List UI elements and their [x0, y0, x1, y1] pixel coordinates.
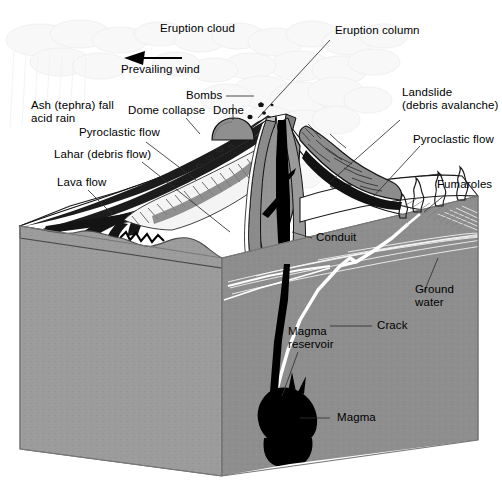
volcano-diagram: Eruption cloud Eruption column Prevailin… — [0, 0, 502, 486]
label-lava-flow: Lava flow — [57, 176, 106, 189]
label-landslide-line2: (debris avalanche) — [402, 99, 498, 112]
label-pyroclastic-flow-right: Pyroclastic flow — [413, 133, 494, 146]
label-ground-water-line1: Ground — [415, 283, 454, 296]
label-magma: Magma — [337, 411, 376, 424]
label-eruption-cloud: Eruption cloud — [160, 22, 235, 35]
label-magma-reservoir-line1: Magma — [288, 325, 327, 338]
label-crack: Crack — [377, 319, 408, 332]
label-ash-fall-line1: Ash (tephra) fall — [31, 99, 114, 112]
label-magma-reservoir-line2: reservoir — [288, 338, 334, 351]
volcano-illustration — [0, 0, 502, 486]
label-pyroclastic-flow-left: Pyroclastic flow — [79, 126, 160, 139]
label-dome: Dome — [213, 104, 244, 117]
label-bombs: Bombs — [186, 89, 222, 102]
label-prevailing-wind: Prevailing wind — [121, 63, 200, 76]
label-eruption-column: Eruption column — [335, 24, 420, 37]
label-dome-collapse: Dome collapse — [128, 104, 205, 117]
label-ground-water-line2: water — [415, 296, 444, 309]
label-lahar: Lahar (debris flow) — [54, 148, 151, 161]
label-conduit: Conduit — [316, 231, 356, 244]
label-landslide-line1: Landslide — [402, 86, 452, 99]
leader-dome-collapse — [186, 118, 200, 134]
label-ash-fall-line2: acid rain — [31, 112, 75, 125]
label-fumaroles: Fumaroles — [437, 178, 492, 191]
